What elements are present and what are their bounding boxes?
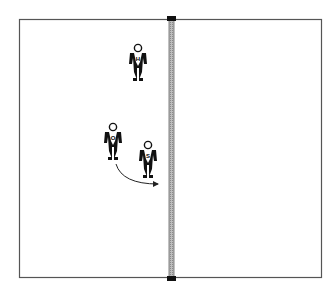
player-h: H <box>129 44 147 81</box>
net-post-bottom <box>167 276 176 281</box>
jersey-letter-s: S <box>146 153 150 159</box>
player-o: O <box>104 123 122 160</box>
jersey-letter-o: O <box>111 135 116 141</box>
net <box>169 19 174 278</box>
net-post-top <box>167 16 176 21</box>
jersey-letter-h: H <box>136 56 140 62</box>
player-s: S <box>139 141 157 178</box>
court-diagram: H O S <box>0 0 335 292</box>
